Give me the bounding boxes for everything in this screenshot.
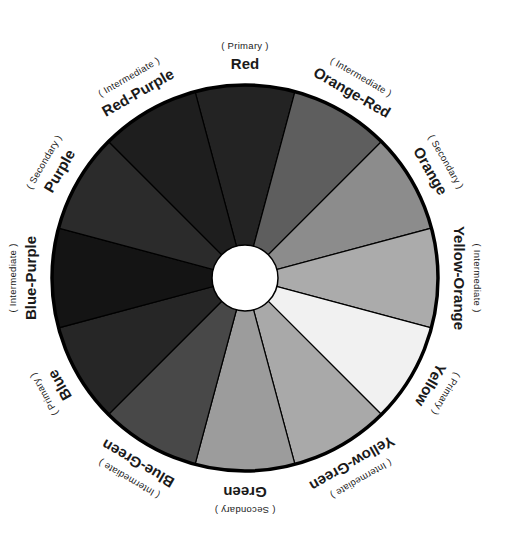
category-label: ( Intermediate ) — [472, 243, 483, 312]
color-name-label: Green — [223, 484, 266, 501]
color-name-label: Yellow-Orange — [451, 226, 468, 330]
color-name-label: Blue-Purple — [22, 236, 39, 320]
label-yellow-orange: ( Intermediate )Yellow-Orange — [451, 226, 483, 330]
label-green: ( Secondary )Green — [215, 484, 276, 516]
center-hole — [212, 245, 278, 311]
label-red: ( Primary )Red — [221, 40, 269, 72]
category-label: ( Intermediate ) — [7, 243, 18, 312]
label-blue-purple: ( Intermediate )Blue-Purple — [7, 236, 39, 320]
color-name-label: Red — [231, 55, 259, 72]
category-label: ( Secondary ) — [215, 505, 276, 516]
label-yellow: ( Primary )Yellow — [411, 360, 463, 417]
category-label: ( Primary ) — [221, 40, 269, 51]
label-blue: ( Primary )Blue — [27, 360, 79, 417]
color-wheel: ( Primary )Red( Intermediate )Orange-Red… — [0, 0, 523, 544]
